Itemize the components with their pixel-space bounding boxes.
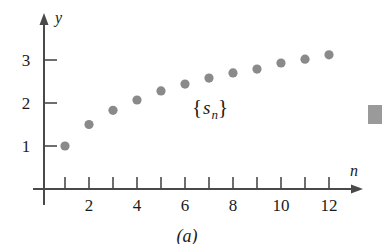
y-tick-label-1: 1: [18, 138, 34, 155]
x-axis-arrowhead: [351, 185, 363, 194]
data-point: [156, 86, 165, 95]
data-point: [132, 95, 141, 104]
figure-panel: 3 2 1 2 4 6 8 10 12 y n {sn} (a): [0, 0, 386, 244]
data-point: [204, 73, 213, 82]
series-label-close-brace: }: [218, 95, 228, 119]
x-tick-label-12: 12: [317, 197, 341, 214]
data-point: [300, 55, 309, 64]
x-tick-label-8: 8: [221, 197, 245, 214]
series-label-open-brace: {: [192, 95, 202, 119]
x-axis-ticks: [65, 177, 329, 189]
figure-caption: (a): [157, 227, 217, 244]
x-tick-label-10: 10: [269, 197, 293, 214]
x-tick-label-2: 2: [77, 197, 101, 214]
y-axis-ticks: [44, 60, 57, 146]
y-axis-arrowhead: [40, 13, 49, 25]
data-point: [276, 58, 285, 67]
y-tick-label-2: 2: [18, 95, 34, 112]
data-point: [252, 64, 261, 73]
x-axis-label: n: [350, 163, 358, 179]
data-point: [324, 50, 333, 59]
data-point: [60, 141, 69, 150]
y-axis-label: y: [55, 10, 62, 26]
edge-artifact-block: [368, 105, 382, 124]
y-tick-label-3: 3: [18, 52, 34, 69]
series-label-symbol: s: [202, 97, 211, 118]
data-point: [84, 120, 93, 129]
x-tick-label-4: 4: [125, 197, 149, 214]
data-point: [180, 79, 189, 88]
data-point: [108, 106, 117, 115]
data-point: [228, 68, 237, 77]
x-tick-label-6: 6: [173, 197, 197, 214]
series-label: {sn}: [192, 97, 228, 121]
